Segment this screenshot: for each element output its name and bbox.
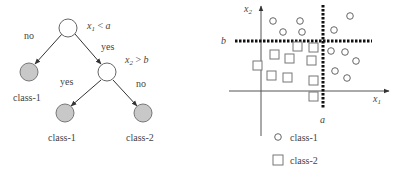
leaf-bottom-right-label: class-2 [126, 132, 154, 143]
figure: x1 < a x2 > b no yes yes no class-1 clas… [0, 0, 396, 172]
point-circle [297, 18, 304, 25]
point-square [307, 56, 316, 65]
threshold-label-a: a [320, 114, 325, 125]
point-square [267, 71, 276, 80]
leaf-left-label: class-1 [13, 92, 41, 103]
point-circle [342, 49, 349, 56]
root-condition: x1 < a [86, 20, 111, 33]
y-axis-label: x2 [243, 3, 252, 16]
point-square [253, 61, 262, 70]
edge-label-root-no: no [24, 30, 34, 41]
decision-tree: x1 < a x2 > b no yes yes no class-1 clas… [13, 19, 154, 143]
legend-square-icon [273, 155, 283, 165]
point-circle [353, 58, 360, 65]
point-square [283, 73, 292, 82]
point-circle [270, 18, 277, 25]
leaf-bottom-left [56, 104, 74, 122]
edge-label-node2-no: no [136, 78, 146, 89]
point-square [309, 43, 318, 52]
point-square [270, 50, 279, 59]
edge-node2-no [113, 80, 137, 106]
scatter-plot: x2 x1 b a [221, 3, 389, 136]
point-circle [280, 29, 287, 36]
edge-label-node2-yes: yes [60, 76, 73, 87]
point-circle [344, 75, 351, 82]
legend-label-class-1: class-1 [290, 132, 318, 143]
point-circle [299, 29, 306, 36]
class-2-points [253, 42, 318, 101]
edge-root-yes [75, 34, 101, 64]
node2 [98, 63, 116, 81]
point-circle [332, 68, 339, 75]
legend-label-class-2: class-2 [290, 155, 318, 166]
threshold-label-b: b [221, 35, 226, 46]
node2-condition: x2 > b [124, 54, 149, 67]
point-circle [331, 27, 338, 34]
legend: class-1 class-2 [273, 132, 318, 166]
point-square [309, 92, 318, 101]
leaf-bottom-left-label: class-1 [48, 132, 76, 143]
legend-circle-icon [275, 134, 282, 141]
point-circle [328, 48, 335, 55]
leaf-left [20, 63, 38, 81]
point-square [293, 42, 302, 51]
edge-node2-yes [71, 80, 101, 106]
leaf-bottom-right [134, 104, 152, 122]
edge-root-no [35, 34, 62, 64]
root-node [59, 19, 77, 37]
edge-label-root-yes: yes [101, 41, 114, 52]
x-axis-label: x1 [372, 93, 381, 106]
point-square [285, 54, 294, 63]
point-circle [347, 13, 354, 20]
point-square [309, 76, 318, 85]
